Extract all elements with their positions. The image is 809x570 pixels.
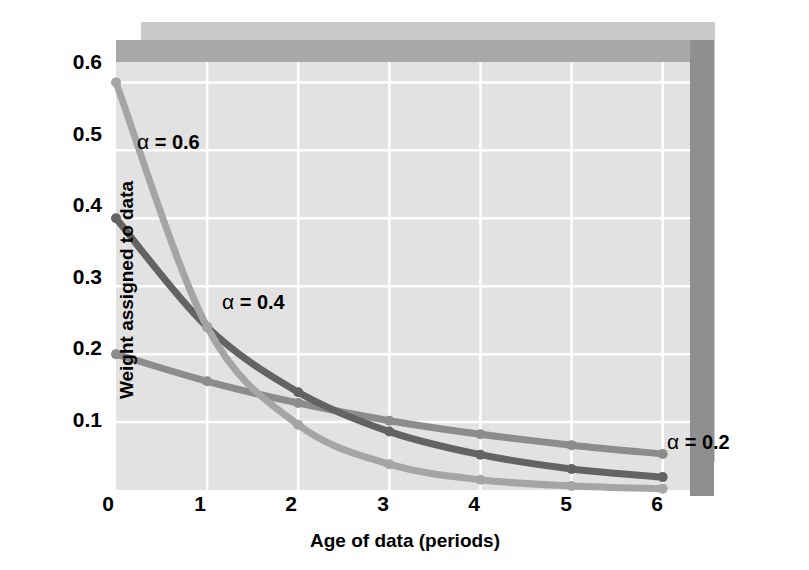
data-point bbox=[111, 77, 121, 87]
chart-canvas: 0.6 0.5 0.4 0.3 0.2 0.1 0 1 2 3 4 5 6 Ag… bbox=[0, 0, 809, 570]
data-point bbox=[384, 416, 394, 426]
data-point bbox=[475, 429, 485, 439]
alpha-value-04: = 0.4 bbox=[234, 291, 285, 313]
data-point bbox=[475, 475, 485, 485]
x-tick-label-6: 6 bbox=[641, 492, 673, 516]
data-point bbox=[293, 420, 303, 430]
alpha-symbol-04: α bbox=[222, 290, 234, 313]
data-point bbox=[384, 459, 394, 469]
data-point bbox=[658, 472, 668, 482]
data-point bbox=[567, 464, 577, 474]
x-tick-label-2: 2 bbox=[275, 492, 307, 516]
y-tick-label-2: 0.4 bbox=[30, 193, 102, 217]
series-label-alpha-06: α = 0.6 bbox=[137, 130, 200, 154]
x-tick-label-4: 4 bbox=[458, 492, 490, 516]
x-tick-label-0: 0 bbox=[92, 492, 124, 516]
x-axis-title: Age of data (periods) bbox=[310, 530, 500, 552]
data-point bbox=[384, 427, 394, 437]
y-tick-label-5: 0.1 bbox=[30, 408, 102, 432]
y-axis-title: Weight assigned to data bbox=[116, 181, 138, 399]
y-tick-label-4: 0.2 bbox=[30, 336, 102, 360]
data-point bbox=[567, 481, 577, 491]
alpha-symbol-06: α bbox=[137, 130, 149, 153]
data-point bbox=[475, 450, 485, 460]
data-point bbox=[202, 376, 212, 386]
series-label-alpha-02: α = 0.2 bbox=[667, 430, 730, 454]
alpha-value-02: = 0.2 bbox=[679, 431, 730, 453]
y-tick-label-3: 0.3 bbox=[30, 265, 102, 289]
x-tick-label-1: 1 bbox=[184, 492, 216, 516]
data-point bbox=[293, 387, 303, 397]
data-point bbox=[202, 322, 212, 332]
data-point bbox=[567, 440, 577, 450]
x-tick-label-3: 3 bbox=[367, 492, 399, 516]
data-point bbox=[293, 398, 303, 408]
x-tick-label-5: 5 bbox=[550, 492, 582, 516]
y-tick-label-0: 0.6 bbox=[30, 50, 102, 74]
alpha-value-06: = 0.6 bbox=[149, 131, 200, 153]
alpha-symbol-02: α bbox=[667, 430, 679, 453]
series-label-alpha-04: α = 0.4 bbox=[222, 290, 285, 314]
y-tick-label-1: 0.5 bbox=[30, 122, 102, 146]
